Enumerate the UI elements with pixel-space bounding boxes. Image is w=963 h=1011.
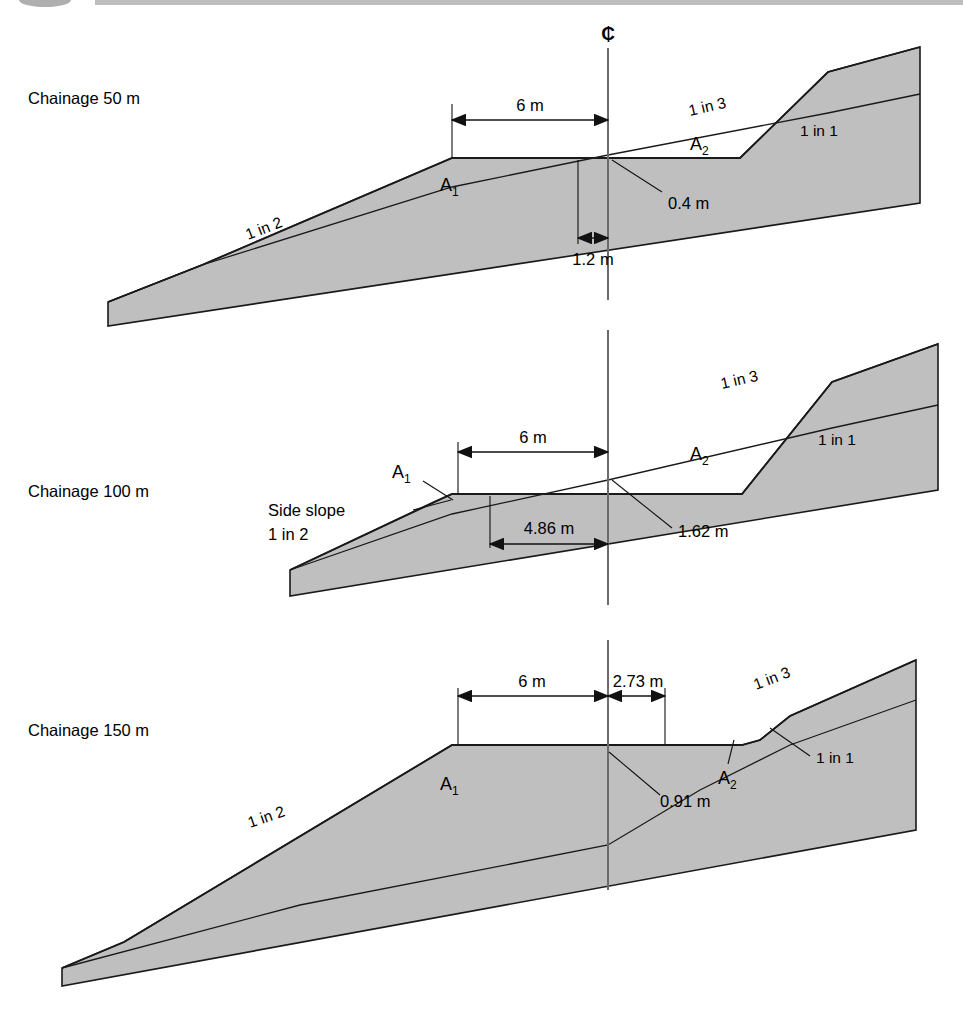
area-label-a2: A2 [690, 444, 709, 468]
slope-label-1-in-3: 1 in 3 [751, 663, 792, 692]
chainage-label-150: Chainage 150 m [28, 721, 149, 739]
depth-label-0p4m: 0.4 m [668, 194, 709, 212]
earth-fill-area [290, 344, 938, 596]
chainage-label-100: Chainage 100 m [28, 482, 149, 500]
area-label-a1: A1 [392, 462, 411, 486]
cross-section-chainage-150: 6 m 2.73 m 0.91 m A2 1 in 1 1 in 3 1 in … [28, 640, 916, 986]
side-slope-note-line2: 1 in 2 [268, 525, 308, 543]
slope-label-1-in-3: 1 in 3 [687, 94, 728, 119]
dim-label-2p73m: 2.73 m [613, 672, 663, 690]
dim-label-6m: 6 m [516, 96, 544, 114]
slope-label-1-in-1: 1 in 1 [818, 431, 856, 448]
dim-label-1p2m: 1.2 m [572, 250, 613, 268]
figure-canvas: ₵ 6 m 1.2 m 0.4 m 1 in 2 1 in 3 1 in 1 A… [0, 0, 963, 1011]
chainage-label-50: Chainage 50 m [28, 89, 140, 107]
dim-label-4p86m: 4.86 m [524, 519, 574, 537]
depth-label-1p62m: 1.62 m [678, 522, 728, 540]
cross-section-chainage-100: 6 m 4.86 m 1.62 m A1 Side slope 1 in 2 1… [28, 330, 938, 605]
dim-label-6m: 6 m [519, 428, 547, 446]
area-label-a2: A2 [690, 134, 709, 158]
earth-fill-area [108, 47, 920, 326]
leader-line-a1 [423, 481, 453, 500]
slope-label-1-in-2: 1 in 2 [245, 802, 286, 830]
cross-section-chainage-50: ₵ 6 m 1.2 m 0.4 m 1 in 2 1 in 3 1 in 1 A… [28, 23, 920, 326]
centre-line-symbol: ₵ [601, 23, 615, 44]
page-top-artifact [19, 0, 963, 7]
slope-label-1-in-1: 1 in 1 [800, 122, 838, 139]
dim-label-6m: 6 m [518, 672, 546, 690]
slope-label-1-in-1: 1 in 1 [816, 749, 854, 766]
slope-label-1-in-3: 1 in 3 [719, 367, 760, 392]
depth-label-0p91m: 0.91 m [660, 792, 710, 810]
earth-fill-area [62, 660, 916, 986]
side-slope-note-line1: Side slope [268, 501, 345, 519]
